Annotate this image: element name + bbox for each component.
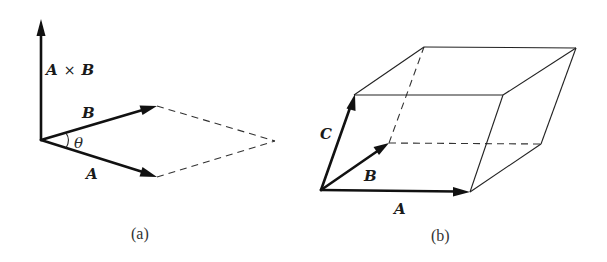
caption-b: (b) — [431, 227, 450, 245]
dashed-edge-b-to-far — [157, 106, 275, 141]
label-vector-a-3d: A — [392, 200, 406, 218]
label-cross-product: A × B — [44, 61, 94, 79]
arrowhead-b — [140, 106, 158, 116]
dashed-edge-a-to-far — [157, 141, 275, 177]
label-cross-a: A — [44, 61, 58, 79]
arrowhead-c — [347, 94, 356, 111]
vector-a-3d — [321, 190, 457, 192]
label-vector-c: C — [320, 125, 332, 143]
arrowhead-a-cross-b — [37, 19, 46, 36]
edge-bottom-right — [470, 144, 541, 192]
edge-top-back — [424, 47, 576, 48]
edge-top-right — [503, 48, 576, 95]
hidden-edge-horizontal — [389, 143, 541, 144]
label-angle-theta: θ — [74, 134, 83, 152]
angle-arc — [66, 133, 69, 148]
caption-a: (a) — [131, 225, 149, 243]
label-vector-b: B — [81, 104, 95, 122]
figure-a: A × B B θ A (a) — [37, 19, 276, 243]
figure-b: C B A (b) — [320, 47, 576, 245]
arrowhead-a-3d — [453, 187, 470, 197]
label-cross-b: B — [80, 61, 94, 79]
label-vector-a: A — [84, 165, 98, 183]
vector-diagram: A × B B θ A (a) C B A (b) — [0, 0, 607, 262]
label-cross-times: × — [64, 62, 76, 78]
label-vector-b-3d: B — [363, 167, 377, 185]
edge-back-right-vertical — [541, 48, 576, 144]
arrowhead-a — [140, 167, 158, 177]
vector-c — [321, 105, 351, 190]
edge-top-left — [354, 47, 424, 95]
